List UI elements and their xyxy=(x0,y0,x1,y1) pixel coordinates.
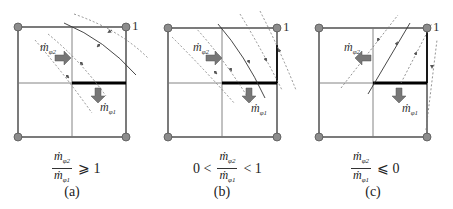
node xyxy=(164,133,172,141)
node-1 xyxy=(423,24,431,32)
node xyxy=(315,133,323,141)
node xyxy=(273,133,281,141)
flux-arrow-right-icon xyxy=(55,51,71,65)
flow-label-mphi2: ṁφ2 xyxy=(193,40,209,56)
direction-tick xyxy=(415,53,416,55)
node xyxy=(423,133,431,141)
panel-c xyxy=(315,15,437,141)
direction-tick xyxy=(265,58,266,60)
ratio-fraction: ṁφ2 ṁφ1 xyxy=(52,150,72,188)
direction-tick xyxy=(80,62,82,64)
flow-label-mphi1: ṁφ1 xyxy=(402,101,418,117)
ratio-fraction: ṁφ2 ṁφ1 xyxy=(351,150,371,188)
node-1 xyxy=(122,23,130,31)
panel-b xyxy=(164,11,296,141)
direction-tick xyxy=(248,60,249,62)
direction-tick xyxy=(98,44,100,46)
direction-tick xyxy=(230,68,231,70)
node-1 xyxy=(273,24,281,32)
streamline xyxy=(48,34,106,96)
node xyxy=(122,133,130,141)
flow-label-mphi2: ṁφ2 xyxy=(344,40,360,56)
flow-label-mphi1: ṁφ1 xyxy=(100,100,116,116)
condition-b: 0 < ṁφ2 ṁφ1 < 1 xyxy=(190,150,265,188)
condition-a: ṁφ2 ṁφ1 ⩾ 1 xyxy=(49,150,104,188)
node-label: 1 xyxy=(433,19,440,35)
direction-tick xyxy=(214,71,216,73)
flow-label-mphi2: ṁφ2 xyxy=(40,40,56,56)
node-label: 1 xyxy=(283,19,290,35)
panel-label-c: (c) xyxy=(353,184,393,200)
ratio-fraction: ṁφ2 ṁφ1 xyxy=(217,150,237,188)
node-label: 1 xyxy=(132,18,139,34)
direction-tick xyxy=(66,75,68,77)
panel-label-a: (a) xyxy=(52,184,92,200)
node xyxy=(14,133,22,141)
streamline-solid xyxy=(218,24,265,98)
flow-label-mphi1: ṁφ1 xyxy=(251,101,267,117)
streamline xyxy=(195,27,252,104)
node xyxy=(315,24,323,32)
condition-c: ṁφ2 ṁφ1 ⩽ 0 xyxy=(348,150,403,188)
node xyxy=(14,23,22,31)
panel-a xyxy=(14,14,148,141)
panel-label-b: (b) xyxy=(202,184,242,200)
node xyxy=(164,24,172,32)
direction-tick xyxy=(279,50,280,52)
streamline xyxy=(260,11,296,90)
